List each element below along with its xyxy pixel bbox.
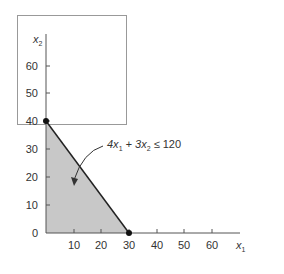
x-tick-label: 50 (178, 239, 190, 251)
x-tick-label: 30 (123, 239, 135, 251)
x-tick-label: 20 (95, 239, 107, 251)
y-axis-label: x2 (32, 33, 43, 47)
y-tick-label: 30 (26, 143, 38, 155)
constraint-label: 4x1 + 3x2 ≤ 120 (107, 138, 181, 152)
vertex-point (43, 118, 49, 124)
y-tick-label: 40 (26, 115, 38, 127)
y-tick-label: 50 (26, 87, 38, 99)
y-tick-label: 0 (32, 227, 38, 239)
y-tick-label: 10 (26, 199, 38, 211)
y-tick-label: 60 (26, 60, 38, 72)
y-tick-label: 20 (26, 171, 38, 183)
x-tick-label: 60 (206, 239, 218, 251)
vertex-point (126, 230, 132, 236)
x-tick-label: 40 (151, 239, 163, 251)
lp-diagram: 0 10 20 30 40 50 60 10 20 30 40 50 60 x2… (0, 0, 284, 274)
x-axis-label: x1 (235, 239, 246, 253)
x-tick-label: 10 (68, 239, 80, 251)
